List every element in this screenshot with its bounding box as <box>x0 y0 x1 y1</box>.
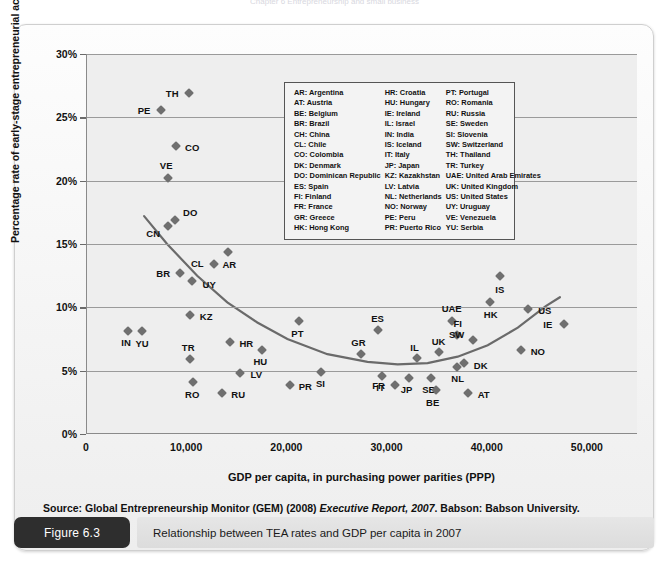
source-note: Source: Global Entrepreneurship Monitor … <box>43 502 580 514</box>
data-point-label-BR: BR <box>156 268 170 279</box>
x-tick-label-30000: 30,000 <box>370 441 402 453</box>
data-point-label-IE: IE <box>543 318 552 329</box>
legend-item-IS: IS: Iceland <box>385 140 442 150</box>
legend-item-SE: SE: Sweden <box>446 119 520 129</box>
legend-item-LV: LV: Latvia <box>385 182 442 192</box>
legend-item-IL: IL: Israel <box>385 119 442 129</box>
data-point-label-RU: RU <box>231 389 245 400</box>
data-point-label-PT: PT <box>291 328 303 339</box>
data-point-label-TH: TH <box>166 88 179 99</box>
legend-item-UY: UY: Uruguay <box>446 202 520 212</box>
legend-column-2: HR: CroatiaHU: HungaryIE: IrelandIL: Isr… <box>385 88 442 234</box>
legend-item-JP: JP: Japan <box>385 161 442 171</box>
y-tick-mark <box>80 307 86 308</box>
gridline-10% <box>87 307 637 308</box>
data-point-label-HU: HU <box>253 356 267 367</box>
legend-item-HR: HR: Croatia <box>385 88 442 98</box>
data-point-label-CO: CO <box>185 142 199 153</box>
legend-item-TR: TR: Turkey <box>446 161 520 171</box>
legend-item-VE: VE: Venezuela <box>446 213 520 223</box>
data-point-label-DK: DK <box>474 360 488 371</box>
data-point-label-DO: DO <box>183 206 197 217</box>
data-point-label-CL: CL <box>191 258 204 269</box>
data-point-label-UAE: UAE <box>442 303 462 314</box>
data-point-label-GR: GR <box>351 337 365 348</box>
legend-item-CO: CO: Colombia <box>294 150 381 160</box>
legend-item-HU: HU: Hungary <box>385 98 442 108</box>
legend-item-DK: DK: Denmark <box>294 161 381 171</box>
x-tick-label-0: 0 <box>83 441 89 453</box>
data-point-label-IS: IS <box>495 283 504 294</box>
figure-page: Chapter 6 Entrepreneurship and small bus… <box>0 0 668 566</box>
gridline-30% <box>87 54 637 55</box>
legend-column-3: PT: PortugalRO: RomaniaRU: RussiaSE: Swe… <box>446 88 520 234</box>
data-point-label-ES: ES <box>371 313 384 324</box>
page-header-text: Chapter 6 Entrepreneurship and small bus… <box>250 0 650 9</box>
data-point-label-UY: UY <box>203 278 216 289</box>
legend-item-RO: RO: Romania <box>446 98 520 108</box>
legend-item-UK: UK: United Kingdom <box>446 182 520 192</box>
x-tick-label-20000: 20,000 <box>270 441 302 453</box>
y-tick-mark <box>80 181 86 182</box>
data-point-label-PR: PR <box>299 380 312 391</box>
legend-item-KZ: KZ: Kazakhstan <box>385 171 442 181</box>
legend-item-SI: SI: Slovenia <box>446 130 520 140</box>
legend-item-NO: NO: Norway <box>385 202 442 212</box>
legend-item-GR: GR: Greece <box>294 213 381 223</box>
legend-item-CL: CL: Chile <box>294 140 381 150</box>
legend-item-FI: FI: Finland <box>294 192 381 202</box>
legend-item-PR: PR: Puerto Rico <box>385 223 442 233</box>
figure-caption-bar: Figure 6.3 Relationship between TEA rate… <box>14 517 654 548</box>
source-title-italic: Executive Report, 2007 <box>320 502 435 514</box>
data-point-label-FR: FR <box>372 379 385 390</box>
data-point-label-YU: YU <box>135 338 148 349</box>
data-point-label-LV: LV <box>251 369 262 380</box>
x-tick-label-40000: 40,000 <box>471 441 503 453</box>
legend-item-IT: IT: Italy <box>385 150 442 160</box>
legend-item-US: US: United States <box>446 192 520 202</box>
legend-item-PE: PE: Peru <box>385 213 442 223</box>
figure-number-tag: Figure 6.3 <box>14 517 130 548</box>
data-point-label-BE: BE <box>426 396 439 407</box>
y-tick-label-5%: 5% <box>62 365 77 377</box>
legend-item-CH: CH: China <box>294 130 381 140</box>
y-tick-label-10%: 10% <box>56 301 77 313</box>
legend-item-PT: PT: Portugal <box>446 88 520 98</box>
y-axis-title: Percentage rate of early-stage entrepren… <box>9 0 21 243</box>
legend-item-SW: SW: Switzerland <box>446 140 520 150</box>
y-tick-mark <box>80 434 86 435</box>
data-point-label-SI: SI <box>316 377 325 388</box>
data-point-label-IL: IL <box>410 342 418 353</box>
x-tick-label-50000: 50,000 <box>571 441 603 453</box>
country-code-legend: AR: ArgentinaAT: AustriaBE: BelgiumBR: B… <box>284 82 515 240</box>
y-tick-label-20%: 20% <box>56 175 77 187</box>
y-tick-mark <box>80 371 86 372</box>
legend-item-YU: YU: Serbia <box>446 223 520 233</box>
data-point-label-IN: IN <box>121 337 131 348</box>
legend-item-ES: ES: Spain <box>294 182 381 192</box>
legend-item-TH: TH: Thailand <box>446 150 520 160</box>
data-point-label-FI: FI <box>453 318 461 329</box>
legend-item-FR: FR: France <box>294 202 381 212</box>
data-point-label-US: US <box>538 304 551 315</box>
legend-item-BR: BR: Brazil <box>294 119 381 129</box>
legend-item-DO: DO: Dominican Republic <box>294 171 381 181</box>
gridline-5% <box>87 371 637 372</box>
figure-card: Percentage rate of early-stage entrepren… <box>14 24 654 551</box>
x-axis-title: GDP per capita, in purchasing power pari… <box>86 471 637 483</box>
data-point-label-RO: RO <box>185 389 199 400</box>
legend-item-AT: AT: Austria <box>294 98 381 108</box>
data-point-label-VE: VE <box>160 160 173 171</box>
data-point-label-AT: AT <box>478 389 490 400</box>
gridline-15% <box>87 244 637 245</box>
data-point-label-CN: CN <box>146 228 160 239</box>
data-point-label-NL: NL <box>451 372 464 383</box>
y-tick-label-15%: 15% <box>56 238 77 250</box>
x-tick-label-10000: 10,000 <box>170 441 202 453</box>
data-point-label-PE: PE <box>138 104 151 115</box>
y-tick-mark <box>80 117 86 118</box>
legend-item-IE: IE: Ireland <box>385 109 442 119</box>
source-prefix: Source: Global Entrepreneurship Monitor … <box>43 502 320 514</box>
data-point-label-AR: AR <box>222 258 236 269</box>
data-point-label-HK: HK <box>484 309 498 320</box>
